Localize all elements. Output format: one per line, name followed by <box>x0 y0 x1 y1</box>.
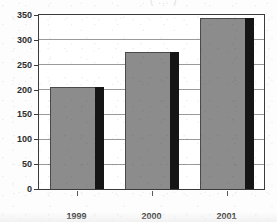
y-axis-tick <box>34 65 39 66</box>
clipped-title-remnant: ( ... ) <box>150 0 270 7</box>
y-axis-label: 250 <box>17 60 32 70</box>
y-axis-label: 300 <box>17 35 32 45</box>
x-axis-label-2000: 2000 <box>141 211 161 221</box>
y-axis-label: 100 <box>17 134 32 144</box>
y-axis-label: 50 <box>22 159 32 169</box>
y-axis-tick <box>34 164 39 165</box>
bar-shadow-edge <box>95 87 104 189</box>
y-axis-label: 350 <box>17 10 32 20</box>
y-axis-label: 150 <box>17 109 32 119</box>
plot-area: 050100150200250300350199920002001 <box>38 14 265 190</box>
y-axis-tick <box>34 40 39 41</box>
y-axis-tick <box>34 189 39 190</box>
bar-2001 <box>200 18 254 189</box>
x-axis-tick <box>152 191 153 196</box>
x-axis-tick <box>77 191 78 196</box>
bar-shadow-edge <box>170 52 179 189</box>
bar-chart-screenshot: ( ... ) 05010015020025030035019992000200… <box>0 0 277 222</box>
x-axis-label-2001: 2001 <box>216 211 236 221</box>
y-axis-tick <box>34 15 39 16</box>
x-axis-label-1999: 1999 <box>66 211 86 221</box>
y-axis-tick <box>34 139 39 140</box>
bar-2000 <box>125 52 179 189</box>
y-axis-label: 0 <box>27 184 32 194</box>
y-axis-label: 200 <box>17 85 32 95</box>
bar-1999 <box>50 87 104 189</box>
x-axis-tick <box>227 191 228 196</box>
bar-shadow-edge <box>245 18 254 189</box>
y-axis-tick <box>34 114 39 115</box>
y-axis-tick <box>34 90 39 91</box>
